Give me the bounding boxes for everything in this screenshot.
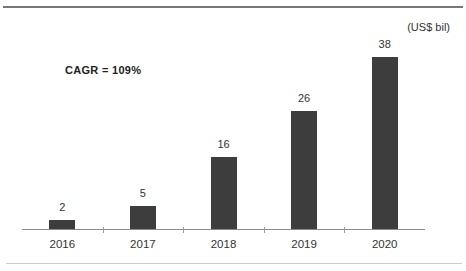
chart-container: (US$ bil) CAGR = 109% 220165201716201826… (0, 0, 466, 271)
bar-value-label: 16 (194, 138, 254, 150)
bar-value-label: 5 (113, 187, 173, 199)
bar-value-label: 2 (32, 201, 92, 213)
bar-2016 (49, 220, 75, 229)
x-tick-label: 2018 (194, 238, 254, 250)
axis-tick (183, 227, 184, 233)
x-tick-label: 2017 (113, 238, 173, 250)
bar-2019 (291, 111, 317, 229)
bottom-divider-line (6, 263, 462, 264)
x-tick-label: 2016 (32, 238, 92, 250)
axis-tick (344, 227, 345, 233)
x-axis-line (22, 229, 425, 230)
bar-value-label: 38 (355, 38, 415, 50)
x-tick-label: 2019 (274, 238, 334, 250)
bar-2018 (211, 157, 237, 229)
x-tick-label: 2020 (355, 238, 415, 250)
bar-chart: 2201652017162018262019382020 (22, 0, 425, 230)
axis-tick (264, 227, 265, 233)
bar-2020 (372, 57, 398, 229)
bar-2017 (130, 206, 156, 229)
bar-value-label: 26 (274, 92, 334, 104)
axis-tick (103, 227, 104, 233)
